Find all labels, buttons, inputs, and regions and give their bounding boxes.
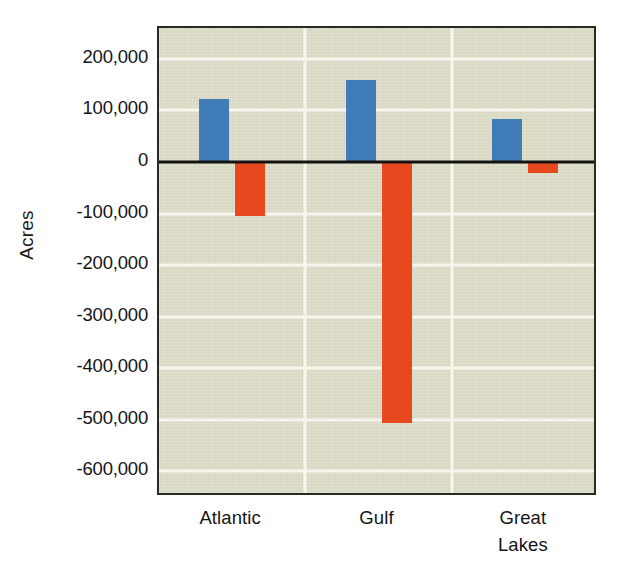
- gridline-horizontal: [159, 470, 594, 473]
- bar-gains-0: [199, 99, 229, 162]
- bar-gains-2: [492, 119, 522, 162]
- y-tick-label: -100,000: [48, 201, 148, 223]
- y-tick-label: 100,000: [48, 97, 148, 119]
- y-axis-title: Acres: [16, 195, 38, 275]
- gridline-vertical: [304, 28, 307, 493]
- bar-gains-1: [346, 80, 376, 162]
- plot-area: [157, 26, 596, 495]
- gridline-horizontal: [159, 264, 594, 267]
- bar-chart-figure: Acres 200,000100,0000-100,000-200,000-30…: [0, 0, 624, 578]
- y-tick-label: -300,000: [48, 304, 148, 326]
- x-tick-label: Great Lakes: [453, 504, 593, 558]
- x-tick-label: Atlantic: [160, 504, 300, 531]
- y-tick-label: -600,000: [48, 458, 148, 480]
- gridline-horizontal: [159, 212, 594, 215]
- y-axis-tick-labels: 200,000100,0000-100,000-200,000-300,000-…: [48, 26, 148, 495]
- y-tick-label: -400,000: [48, 355, 148, 377]
- bar-losses-1: [382, 162, 412, 423]
- x-axis-tick-labels: AtlanticGulfGreat Lakes: [157, 504, 596, 574]
- y-tick-label: -200,000: [48, 252, 148, 274]
- gridline-horizontal: [159, 57, 594, 60]
- bar-losses-2: [528, 162, 558, 173]
- gridline-horizontal: [159, 418, 594, 421]
- y-tick-label: 200,000: [48, 46, 148, 68]
- y-tick-label: 0: [48, 149, 148, 171]
- gridline-horizontal: [159, 367, 594, 370]
- gridline-horizontal: [159, 315, 594, 318]
- zero-baseline: [159, 161, 594, 164]
- y-tick-label: -500,000: [48, 407, 148, 429]
- bar-losses-0: [235, 162, 265, 216]
- gridline-vertical: [450, 28, 453, 493]
- x-tick-label: Gulf: [307, 504, 447, 531]
